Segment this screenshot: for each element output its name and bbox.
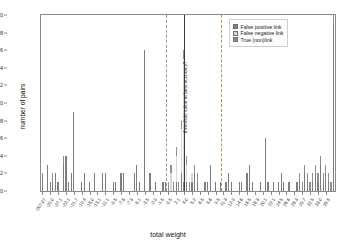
bar <box>204 182 205 191</box>
threshold-annotation: threshold value at best accuracy? <box>183 62 188 133</box>
bar-segment <box>304 165 305 174</box>
bar <box>273 182 274 191</box>
x-tick-label: -9.5 <box>110 197 119 206</box>
bar-segment <box>65 156 66 191</box>
y-axis-label: number of pairs <box>19 52 26 162</box>
bar-segment <box>173 182 174 191</box>
bar <box>71 173 72 191</box>
legend-swatch-false_negative <box>233 31 238 36</box>
bar-segment <box>307 173 308 182</box>
y-tick-mark <box>4 191 7 192</box>
legend-item: False positive link <box>233 24 283 30</box>
bar-segment <box>323 173 324 182</box>
bar-segment <box>84 173 85 191</box>
bar-segment <box>246 173 247 191</box>
y-tick-mark <box>4 138 7 139</box>
bar <box>65 156 66 191</box>
legend-swatch-true_nonlink <box>233 37 238 42</box>
bar-segment <box>102 173 103 191</box>
bar-segment <box>265 138 266 191</box>
bar-segment <box>278 182 279 191</box>
bar <box>120 173 121 191</box>
x-tick-mark <box>121 192 122 195</box>
bar <box>134 173 135 191</box>
bar-segment <box>176 156 177 182</box>
x-tick-mark <box>279 192 280 195</box>
bar-segment <box>181 121 182 130</box>
y-tick-mark <box>4 50 7 51</box>
chart-legend: False positive linkFalse negative linkTr… <box>229 19 288 47</box>
bar <box>231 182 232 191</box>
bar-segment <box>194 173 195 191</box>
bar <box>312 173 313 191</box>
bar <box>55 173 56 191</box>
legend-label: False negative link <box>241 30 284 36</box>
bar-segment <box>149 173 150 191</box>
bar <box>173 182 174 191</box>
x-tick-mark <box>137 192 138 195</box>
bar <box>68 182 69 191</box>
bar-segment <box>309 182 310 191</box>
bar <box>228 173 229 191</box>
legend-label: True (non)link <box>241 37 273 43</box>
bar <box>315 165 316 191</box>
bar <box>304 165 305 191</box>
threshold-dashed-line <box>166 15 167 191</box>
bar-segment <box>315 165 316 174</box>
bar <box>47 165 48 191</box>
x-tick-label: -7.8 <box>118 197 127 206</box>
x-tick-label: -5.1 <box>133 197 142 206</box>
x-tick-label: 8.6 <box>205 197 213 205</box>
bar <box>81 182 82 191</box>
bar <box>170 165 171 191</box>
bar <box>186 156 187 191</box>
x-tick-mark <box>208 192 209 195</box>
bar <box>149 173 150 191</box>
y-axis: 02468101214161820 number of pairs <box>0 0 40 200</box>
x-tick-label: -3.5 <box>141 197 150 206</box>
x-tick-mark <box>310 192 311 195</box>
x-axis-label: total weight <box>0 231 336 238</box>
bar <box>249 165 250 191</box>
bar-segment <box>304 173 305 191</box>
bar-segment <box>267 182 268 191</box>
bar <box>139 182 140 191</box>
x-tick-mark <box>129 192 130 195</box>
bar-segment <box>176 147 177 156</box>
bar <box>89 182 90 191</box>
bar-segment <box>115 182 116 191</box>
bar <box>307 173 308 191</box>
bar-segment <box>144 50 145 191</box>
bar-segment <box>73 112 74 191</box>
x-tick-mark <box>318 192 319 195</box>
bar-segment <box>47 165 48 191</box>
x-tick-mark <box>326 192 327 195</box>
y-tick-mark <box>4 103 7 104</box>
x-tick-mark <box>74 192 75 195</box>
x-tick-mark <box>145 192 146 195</box>
bar-segment <box>228 173 229 191</box>
bar <box>299 173 300 191</box>
bar <box>115 182 116 191</box>
x-tick-mark <box>42 192 43 195</box>
bar <box>288 182 289 191</box>
bar-segment <box>330 182 331 191</box>
x-tick-mark <box>113 192 114 195</box>
x-tick-mark <box>153 192 154 195</box>
y-tick-label: 6 <box>0 135 3 141</box>
bar <box>197 173 198 191</box>
bar <box>50 182 51 191</box>
y-tick-label: 12 <box>0 82 3 88</box>
x-tick-mark <box>58 192 59 195</box>
y-tick-mark <box>4 173 7 174</box>
x-tick-label: 20.1 <box>259 197 268 207</box>
x-tick-mark <box>168 192 169 195</box>
bar-segment <box>186 182 187 191</box>
bar <box>194 165 195 191</box>
bar-segment <box>273 182 274 191</box>
bar-segment <box>170 173 171 191</box>
bar-segment <box>239 182 240 191</box>
bar-segment <box>249 165 250 191</box>
bar <box>278 182 279 191</box>
x-tick-label: 0.5 <box>166 197 174 205</box>
